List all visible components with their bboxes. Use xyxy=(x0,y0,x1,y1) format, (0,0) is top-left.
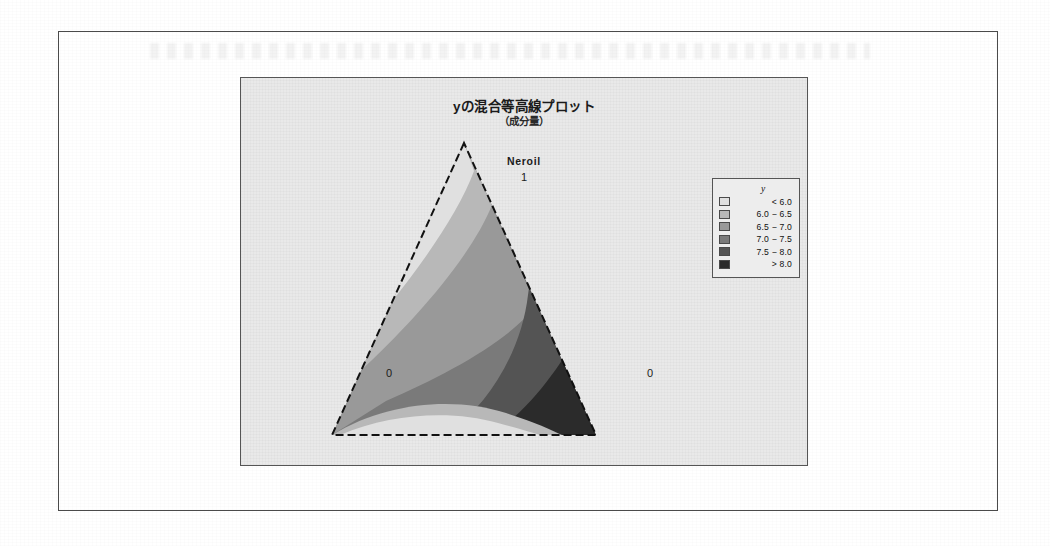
axis-tick-right-edge: 0 xyxy=(647,367,653,379)
legend-entry: 7.5 − 8.0 xyxy=(719,246,793,258)
legend-entry: > 8.0 xyxy=(719,259,793,271)
legend-box: y < 6.06.0 − 6.56.5 − 7.07.0 − 7.57.5 − … xyxy=(712,178,800,278)
legend-color-swatch xyxy=(719,235,730,244)
legend-entry-label: 7.5 − 8.0 xyxy=(730,247,793,257)
legend-entry-label: 6.5 − 7.0 xyxy=(730,222,793,232)
legend-entry-label: < 6.0 xyxy=(730,197,793,207)
legend-entry-label: 6.0 − 6.5 xyxy=(730,209,793,219)
legend-entry-label: 7.0 − 7.5 xyxy=(730,234,793,244)
chart-title: yの混合等高線プロット xyxy=(241,95,807,115)
legend-color-swatch xyxy=(719,222,730,231)
legend-color-swatch xyxy=(719,210,730,219)
legend-color-swatch xyxy=(719,260,730,269)
legend-color-swatch xyxy=(719,197,730,206)
axis-tick-left-edge: 0 xyxy=(386,367,392,379)
legend-entry-list: < 6.06.0 − 6.56.5 − 7.07.0 − 7.57.5 − 8.… xyxy=(719,196,793,270)
legend-entry: < 6.0 xyxy=(719,196,793,208)
chart-panel: yの混合等高線プロット （成分量） xyxy=(240,77,808,466)
chart-subtitle: （成分量） xyxy=(241,113,807,128)
legend-title: y xyxy=(733,184,793,194)
legend-entry-label: > 8.0 xyxy=(730,259,793,269)
legend-entry: 6.5 − 7.0 xyxy=(719,221,793,233)
vertex-label-neroil: Neroil xyxy=(241,155,807,167)
legend-color-swatch xyxy=(719,247,730,256)
legend-entry: 6.0 − 6.5 xyxy=(719,209,793,221)
legend-entry: 7.0 − 7.5 xyxy=(719,234,793,246)
